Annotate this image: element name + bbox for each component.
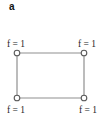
node-top-right (81, 50, 87, 56)
node-label-bottom-left: f = 1 (7, 105, 25, 115)
graph-diagram: f = 1 f = 1 f = 1 f = 1 (0, 0, 104, 119)
node-bottom-left (14, 95, 20, 101)
node-top-left (14, 50, 20, 56)
node-label-top-right: f = 1 (78, 39, 96, 49)
node-bottom-right (81, 95, 87, 101)
node-label-bottom-right: f = 1 (79, 105, 97, 115)
node-label-top-left: f = 1 (7, 39, 25, 49)
figure-panel: a f = 1 f = 1 f = 1 f = 1 (0, 0, 104, 119)
